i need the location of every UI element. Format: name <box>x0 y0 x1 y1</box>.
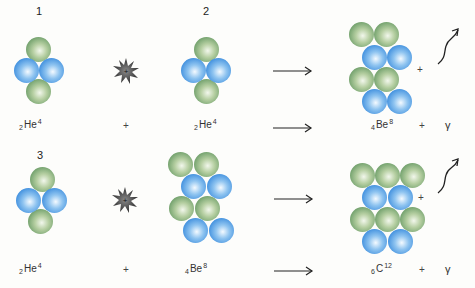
neutron <box>26 79 51 104</box>
reaction-arrow-icon <box>274 194 314 204</box>
product-label: 6C12 <box>371 262 392 275</box>
proton <box>362 185 387 210</box>
reactant-label: 2He4 <box>194 118 217 131</box>
neutron <box>375 163 400 188</box>
proton <box>39 58 64 83</box>
reaction-arrow-icon <box>273 123 313 133</box>
product-label: 4Be8 <box>371 118 393 131</box>
proton <box>362 89 387 114</box>
proton <box>14 58 39 83</box>
reactant-label: 4Be8 <box>185 262 207 275</box>
proton <box>388 229 413 254</box>
step-number-1: 1 <box>29 5 49 17</box>
gamma-ray-icon <box>436 157 462 197</box>
plus-sign: + <box>123 264 129 275</box>
neutron <box>169 196 194 221</box>
plus-sign: + <box>418 192 424 203</box>
neutron <box>168 152 193 177</box>
proton <box>42 188 67 213</box>
neutron <box>400 163 425 188</box>
neutron <box>374 22 399 47</box>
plus-sign: + <box>123 120 129 131</box>
neutron <box>194 152 219 177</box>
gamma-label: γ <box>445 119 451 131</box>
step-number-3: 3 <box>30 149 50 161</box>
reaction-arrow-icon <box>273 66 313 76</box>
neutron <box>375 207 400 232</box>
proton <box>209 218 234 243</box>
reaction-arrow-icon <box>274 266 314 276</box>
neutron <box>195 196 220 221</box>
plus-sign: + <box>417 64 423 75</box>
reactant-label: 2He4 <box>19 262 42 275</box>
neutron <box>400 207 425 232</box>
neutron <box>349 67 374 92</box>
plus-sign: + <box>419 264 425 275</box>
neutron <box>374 67 399 92</box>
gamma-ray-icon <box>436 26 462 66</box>
reactant-label: 2He4 <box>19 118 42 131</box>
proton <box>387 45 412 70</box>
neutron <box>349 22 374 47</box>
proton <box>181 174 206 199</box>
proton <box>207 174 232 199</box>
neutron <box>28 209 53 234</box>
proton <box>362 229 387 254</box>
proton <box>183 218 208 243</box>
svg-text:+: + <box>124 67 129 76</box>
gamma-label: γ <box>445 263 451 275</box>
energy-burst-icon: + <box>112 187 138 213</box>
proton <box>206 58 231 83</box>
energy-burst-icon: + <box>113 58 139 84</box>
svg-text:+: + <box>123 196 128 205</box>
step-number-2: 2 <box>196 5 216 17</box>
proton <box>387 89 412 114</box>
proton <box>16 188 41 213</box>
proton <box>181 58 206 83</box>
plus-sign: + <box>419 120 425 131</box>
